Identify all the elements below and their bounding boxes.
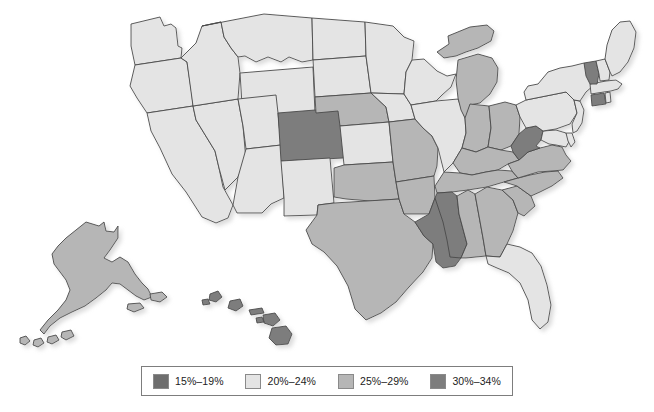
state-RI xyxy=(605,92,611,103)
legend-swatch-20-24-icon xyxy=(245,374,261,389)
state-HI-niihau xyxy=(202,299,210,305)
legend-label-25-29: 25%–29% xyxy=(360,375,409,387)
state-AK-island-3 xyxy=(47,335,59,344)
state-OR xyxy=(130,58,193,113)
state-TX xyxy=(306,199,433,320)
us-map xyxy=(0,0,654,356)
state-AK xyxy=(40,222,152,334)
map-legend: 15%–19% 20%–24% 25%–29% 30%–34% xyxy=(141,366,513,396)
state-HI-lanai xyxy=(256,317,264,323)
us-map-svg xyxy=(0,0,654,356)
figure-caption xyxy=(4,399,404,412)
legend-swatch-15-19-icon xyxy=(153,374,169,389)
state-CO xyxy=(278,108,344,161)
state-MI xyxy=(437,25,494,58)
state-HI-kauai xyxy=(209,291,222,302)
legend-label-20-24: 20%–24% xyxy=(267,375,316,387)
legend-item-20-24: 20%–24% xyxy=(245,374,316,389)
state-AK-island-1 xyxy=(20,336,30,345)
state-HI-bigisland xyxy=(269,326,292,345)
state-AR xyxy=(396,176,435,214)
state-WI xyxy=(404,59,456,105)
legend-item-30-34: 30%–34% xyxy=(430,374,501,389)
state-MD xyxy=(541,130,570,147)
state-HI-molokai xyxy=(249,308,264,315)
state-CT xyxy=(591,93,606,106)
state-OK xyxy=(334,162,399,201)
state-FL xyxy=(486,244,551,329)
state-AK-aleut-1 xyxy=(127,303,144,312)
state-ND xyxy=(312,18,366,60)
state-KS xyxy=(340,122,393,165)
state-SD xyxy=(313,56,371,97)
state-WA xyxy=(131,17,182,65)
choropleth-figure: 15%–19% 20%–24% 25%–29% 30%–34% xyxy=(0,0,654,412)
state-AK-island-4 xyxy=(61,330,74,340)
legend-swatch-25-29-icon xyxy=(338,374,354,389)
legend-item-25-29: 25%–29% xyxy=(338,374,409,389)
legend-item-15-19: 15%–19% xyxy=(153,374,224,389)
state-HI-maui xyxy=(263,313,280,326)
state-AK-tail xyxy=(150,292,167,302)
state-AK-island-2 xyxy=(33,338,44,347)
legend-swatch-30-34-icon xyxy=(430,374,446,389)
legend-label-30-34: 30%–34% xyxy=(452,375,501,387)
state-ME xyxy=(605,21,636,76)
legend-label-15-19: 15%–19% xyxy=(175,375,224,387)
state-HI-oahu xyxy=(228,299,243,311)
